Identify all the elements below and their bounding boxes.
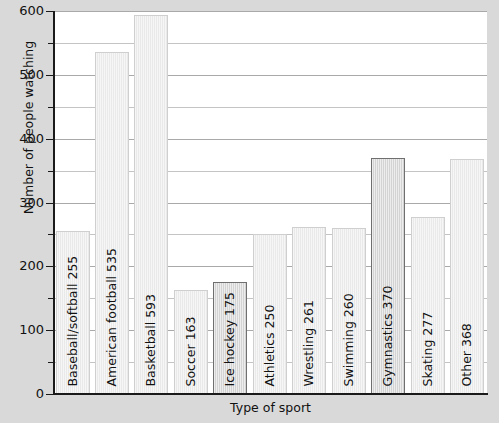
- y-tick-major: [46, 394, 53, 395]
- gridline-major: [53, 11, 487, 12]
- y-tick-label: 100: [19, 323, 44, 336]
- bar-label: Athletics 250: [264, 304, 277, 386]
- bar-label: Swimming 260: [343, 293, 356, 386]
- y-tick-label: 200: [19, 259, 44, 272]
- bar-label: Soccer 163: [185, 316, 198, 386]
- y-tick-major: [46, 75, 53, 76]
- y-tick-label: 300: [19, 196, 44, 209]
- y-tick-major: [46, 266, 53, 267]
- x-axis-title-text: Type of sport: [230, 400, 311, 415]
- y-tick-major: [46, 330, 53, 331]
- y-tick-minor: [48, 362, 53, 363]
- y-tick-label: 0: [36, 387, 44, 400]
- y-tick-minor: [48, 298, 53, 299]
- bar-label: Wrestling 261: [303, 300, 316, 386]
- plot-area: Baseball/softball 255American football 5…: [53, 11, 487, 394]
- bar-label: Baseball/softball 255: [67, 255, 80, 386]
- y-tick-minor: [48, 43, 53, 44]
- y-tick-minor: [48, 107, 53, 108]
- bar-label: Basketball 593: [145, 293, 158, 386]
- bar-label: Skating 277: [422, 311, 435, 386]
- x-axis-line: [53, 393, 488, 395]
- y-tick-major: [46, 11, 53, 12]
- y-tick-major: [46, 203, 53, 204]
- x-axis-title: Type of sport: [53, 400, 488, 415]
- bar-chart-figure: Baseball/softball 255American football 5…: [0, 0, 499, 423]
- y-tick-major: [46, 139, 53, 140]
- y-tick-minor: [48, 234, 53, 235]
- y-axis-title: Number of people watching: [21, 38, 36, 218]
- gridline-minor: [53, 43, 487, 44]
- bar-label: Ice hockey 175: [224, 292, 237, 386]
- y-axis-line: [53, 11, 55, 395]
- y-tick-label: 600: [19, 4, 44, 17]
- y-tick-label: 400: [19, 132, 44, 145]
- bar-label: American football 535: [106, 248, 119, 386]
- y-tick-label: 500: [19, 68, 44, 81]
- bar-label: Other 368: [461, 323, 474, 386]
- y-tick-minor: [48, 171, 53, 172]
- bar-label: Gymnastics 370: [382, 285, 395, 386]
